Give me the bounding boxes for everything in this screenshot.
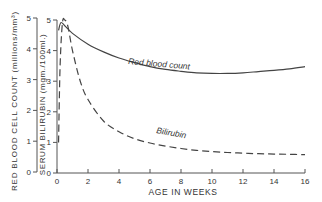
y-tick-label-outer: 1	[27, 137, 32, 146]
x-tick-label: 10	[208, 177, 217, 186]
y-axis-label-inner: SERUM BILIRUBIN (mgm./100ml.)	[38, 34, 47, 175]
x-tick-label: 2	[86, 177, 91, 186]
labels: 0123450123450246810121416AGE IN WEEKSRED…	[10, 11, 310, 197]
y-tick-label-outer: 2	[27, 106, 32, 115]
x-tick-label: 8	[179, 177, 184, 186]
y-tick-label-outer: 0	[27, 168, 32, 177]
y-tick-label-outer: 3	[27, 76, 32, 85]
x-tick-label: 12	[239, 177, 248, 186]
x-tick-label: 4	[117, 177, 122, 186]
chart: 0123450123450246810121416AGE IN WEEKSRED…	[0, 0, 322, 202]
x-tick-label: 0	[55, 177, 60, 186]
axes	[33, 18, 305, 173]
y-tick-label-outer: 4	[27, 45, 32, 54]
annotation-bilirubin: Bilirubin	[156, 125, 188, 140]
y-tick-label-inner: 0	[47, 169, 52, 178]
y-tick-label-inner: 2	[47, 108, 52, 117]
x-tick-label: 14	[270, 177, 279, 186]
y-tick-label-inner: 1	[47, 138, 52, 147]
x-tick-label: 6	[148, 177, 153, 186]
x-axis-label: AGE IN WEEKS	[148, 187, 217, 197]
x-tick-label: 16	[301, 177, 310, 186]
y-tick-label-inner: 5	[47, 16, 52, 25]
y-axis-label-outer: RED BLOOD CELL COUNT (millions/mm³)	[10, 11, 19, 191]
y-tick-label-inner: 3	[47, 77, 52, 86]
y-tick-label-inner: 4	[47, 47, 52, 56]
annotation-rbc: Red blood count	[128, 56, 191, 71]
y-tick-label-outer: 5	[27, 14, 32, 23]
